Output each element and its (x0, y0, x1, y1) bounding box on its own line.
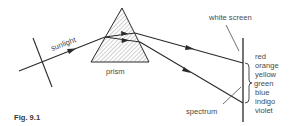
spectrum-pointer (223, 87, 241, 104)
spectrum-label: spectrum (186, 107, 217, 116)
spectrum-color-red: red (255, 52, 266, 61)
dispersion-diagram: sunlight prism white screen spectrum red… (0, 0, 301, 126)
spectrum-color-orange: orange (255, 61, 279, 70)
spectrum-color-indigo: indigo (255, 97, 275, 106)
spectrum-color-green: green (254, 79, 273, 88)
spectrum-color-blue: blue (255, 88, 269, 97)
sunlight-arrow-icon (67, 49, 76, 55)
spectrum-color-violet: violet (255, 106, 274, 115)
spectrum-color-yellow: yellow (255, 70, 277, 79)
white-screen-label: white screen (208, 13, 252, 22)
figure-caption: Fig. 9.1 (14, 113, 41, 122)
white-screen-pointer (226, 25, 239, 51)
prism-label: prism (106, 67, 125, 76)
spectrum-brace (245, 63, 252, 103)
violet-ray-outside (140, 42, 243, 103)
